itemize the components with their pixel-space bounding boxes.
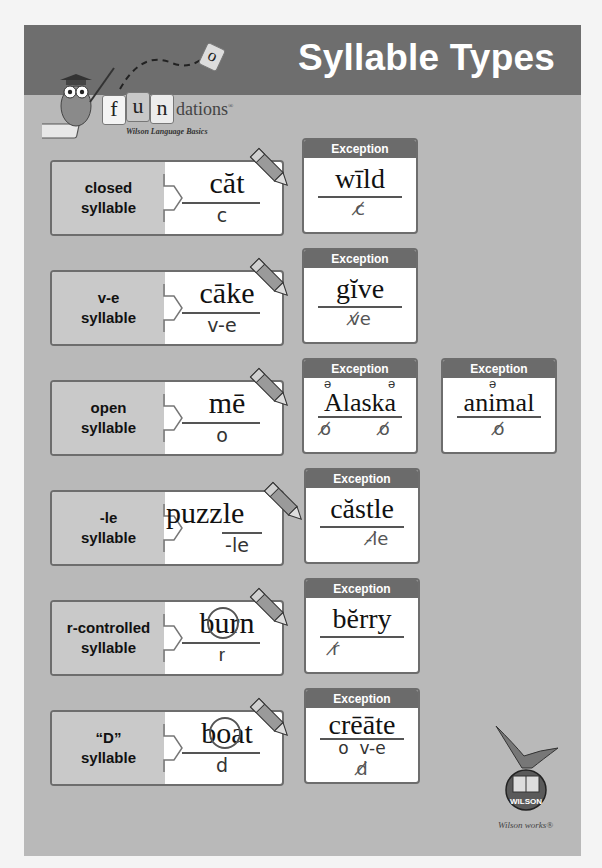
pencil-icon (246, 584, 296, 634)
logo-tile-f: f (102, 95, 126, 125)
exception-word: Alaska (304, 386, 416, 420)
syllable-code: -le (202, 534, 272, 556)
wilson-logo: WILSON Wilson works® (486, 720, 566, 840)
exception-word: bĕrry (306, 602, 418, 636)
syllable-code: d (172, 754, 272, 776)
pencil-icon (246, 364, 296, 414)
exception-word: wīld (304, 162, 416, 196)
syllable-row-v-e: v-esyllable cāke v-e Exception gĭve v̸e (50, 248, 570, 348)
syllable-code: c (172, 204, 272, 226)
syllable-code: o (172, 424, 272, 446)
syllable-row-closed: closedsyllable căt c Exception wīld c̸ (50, 138, 570, 238)
syllable-type-label: -lesyllable (52, 492, 165, 564)
crossed-out-code-icon: v̸e (304, 308, 416, 329)
svg-text:WILSON: WILSON (510, 797, 542, 806)
pencil-icon (260, 478, 310, 528)
exception-header: Exception (304, 140, 416, 158)
crossed-out-code-icon: o̸ o̸ (304, 418, 416, 439)
syllable-type-label: opensyllable (52, 382, 165, 454)
syllable-row-r-controlled: r-controlledsyllable burn r Exception bĕ… (50, 578, 570, 678)
pencil-icon (246, 144, 296, 194)
syllable-codes: o v-e (306, 738, 418, 758)
syllable-code: v-e (172, 314, 272, 336)
crossed-out-code-icon: d̸ (306, 758, 418, 779)
pencil-icon (246, 254, 296, 304)
syllable-type-label: v-esyllable (52, 272, 165, 344)
page-title: Syllable Types (298, 37, 555, 79)
exception-box: Exception wīld c̸ (302, 138, 418, 234)
logo-tile-u: u (126, 92, 150, 122)
syllable-row-le: -lesyllable puzzle -le Exception căstle … (50, 468, 570, 568)
exception-word: animal (443, 386, 555, 420)
exception-header: Exception (304, 360, 416, 378)
crossed-out-code-icon: r̸ (306, 638, 418, 659)
exception-box: Exception crēāte o v-e d̸ (304, 688, 420, 784)
exception-header: Exception (443, 360, 555, 378)
exception-box: Exception ə ə Alaska o̸ o̸ (302, 358, 418, 454)
syllable-card: -lesyllable puzzle -le (50, 490, 284, 566)
fundations-logo: o f u n dations® Wilson Language Basics (42, 45, 252, 145)
exception-box: Exception căstle -l̸e (304, 468, 420, 564)
exception-word: căstle (306, 492, 418, 526)
logo-tile-n: n (150, 94, 174, 124)
exception-box: Exception ə animal o̸ (441, 358, 557, 454)
syllable-type-label: r-controlledsyllable (52, 602, 165, 674)
exception-header: Exception (304, 250, 416, 268)
syllable-code: r (172, 644, 272, 666)
logo-wordmark: dations® (176, 99, 233, 120)
pencil-icon (246, 694, 296, 744)
exception-word: crēāte (306, 708, 418, 742)
logo-subtitle: Wilson Language Basics (126, 127, 208, 136)
exception-word: gĭve (304, 272, 416, 306)
syllable-type-label: “D”syllable (52, 712, 165, 784)
exception-header: Exception (306, 580, 418, 598)
syllable-row-open: opensyllable mē o Exception ə ə Alaska o… (50, 358, 570, 458)
eagle-globe-icon: WILSON (486, 720, 566, 820)
wilson-tagline: Wilson works® (498, 820, 553, 830)
syllable-types-poster: Syllable Types o f u n dations® Wilson L… (24, 25, 581, 856)
crossed-out-code-icon: c̸ (304, 198, 416, 219)
circle-mark-icon (208, 716, 242, 750)
exception-header: Exception (306, 690, 418, 708)
circle-mark-icon (206, 606, 240, 640)
crossed-out-code-icon: o̸ (443, 418, 555, 439)
crossed-out-code-icon: -l̸e (306, 528, 418, 549)
exception-box: Exception bĕrry r̸ (304, 578, 420, 674)
syllable-type-label: closedsyllable (52, 162, 165, 234)
exception-box: Exception gĭve v̸e (302, 248, 418, 344)
exception-header: Exception (306, 470, 418, 488)
